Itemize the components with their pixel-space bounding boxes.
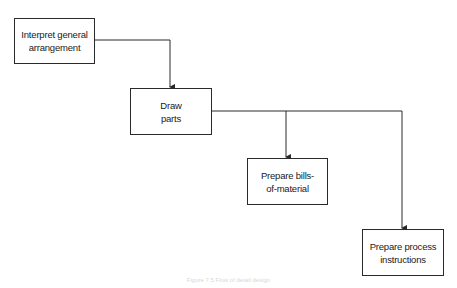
edge-interpret-to-draw xyxy=(94,40,170,87)
node-prepare-bills-of-material: Prepare bills- of-material xyxy=(247,158,328,205)
node-label: Prepare process instructions xyxy=(370,240,437,266)
node-interpret-general-arrangement: Interpret general arrangement xyxy=(14,18,95,64)
node-label: Draw parts xyxy=(160,99,181,125)
edge-draw-to-bills xyxy=(211,111,286,157)
node-draw-parts: Draw parts xyxy=(130,88,212,135)
node-prepare-process-instructions: Prepare process instructions xyxy=(362,229,444,276)
node-label: Prepare bills- of-material xyxy=(261,169,314,195)
node-label: Interpret general arrangement xyxy=(21,28,87,54)
figure-caption: Figure 7.5 Flow of detail design xyxy=(0,277,457,283)
